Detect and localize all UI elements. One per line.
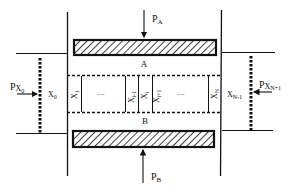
plate-a [74,40,216,55]
plate-b [73,131,214,147]
force-label-a: PA [152,13,163,26]
force-label-b: PB [151,171,162,184]
compartment-label-xi: Xi [140,91,150,99]
ellipsis-right: ··· [177,90,185,99]
ellipsis-left: ··· [97,90,105,99]
right-force-label: PXN+1 [259,79,281,91]
left-boundary-label: X0 [48,90,57,100]
right-wall [221,10,222,176]
diagram-canvas: PA A PB B X1 ··· Xi-1 Xi Xi+1 ··· XN PX0… [0,0,291,194]
left-force-label: PX0 [10,81,24,94]
compartment-label-x1: X1 [70,90,80,99]
compartment-label-xn: XN [210,88,220,99]
plate-label-b: B [142,116,148,126]
compartment-label-xi-1: Xi-1 [127,91,137,103]
plate-label-a: A [141,59,148,69]
compartment-label-xi+1: Xi+1 [152,90,162,103]
right-boundary-label: XN-1 [227,90,242,100]
